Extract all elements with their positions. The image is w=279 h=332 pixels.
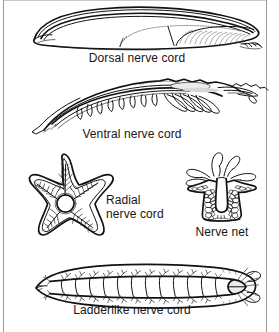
sea-star-icon bbox=[10, 150, 120, 262]
figure-root: Dorsal nerve cord bbox=[0, 0, 279, 332]
caption-ventral-nerve-cord: Ventral nerve cord bbox=[52, 128, 212, 142]
caption-nerve-net: Nerve net bbox=[176, 226, 268, 240]
panel-ventral-nerve-cord: Ventral nerve cord bbox=[22, 74, 272, 146]
caption-ladderlike-nerve-cord: Ladderlike nerve cord bbox=[42, 304, 222, 318]
hydra-icon bbox=[176, 150, 268, 230]
plate-border-top bbox=[3, 0, 267, 1]
panel-dorsal-nerve-cord: Dorsal nerve cord bbox=[8, 2, 266, 70]
caption-radial-nerve-cord: Radial nerve cord bbox=[106, 194, 184, 221]
caption-dorsal-nerve-cord: Dorsal nerve cord bbox=[8, 52, 266, 66]
caption-radial-line2: nerve cord bbox=[106, 208, 184, 222]
caption-radial-line1: Radial bbox=[106, 194, 184, 208]
plate-border-left bbox=[3, 0, 4, 332]
panel-nerve-net: Nerve net bbox=[176, 150, 268, 250]
panel-radial-nerve-cord: Radial nerve cord bbox=[10, 150, 185, 262]
panel-ladderlike-nerve-cord: Ladderlike nerve cord bbox=[24, 258, 268, 330]
